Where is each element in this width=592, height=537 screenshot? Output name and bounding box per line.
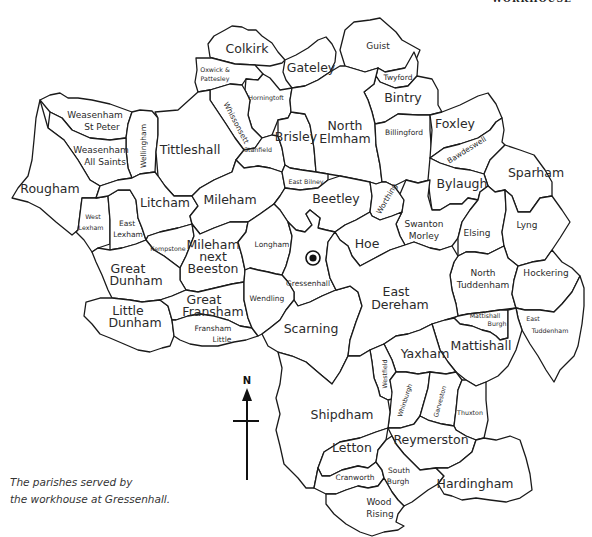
label-wendling: Wendling <box>250 294 285 303</box>
label-mattishall-burgh-2: Burgh <box>488 320 507 328</box>
label-kempstone: Kempstone <box>150 245 185 253</box>
label-hardingham: Hardingham <box>436 476 513 491</box>
label-letton: Letton <box>332 440 372 455</box>
label-stanfield: Stanfield <box>244 146 272 153</box>
north-arrow-icon: N <box>233 375 259 480</box>
label-swanton-morley-1: Swanton <box>404 219 443 229</box>
caption-line-2: the workhouse at Gressenhall. <box>10 491 170 508</box>
label-east-tuddenham-2: Tuddenham <box>531 327 569 334</box>
label-west-lexham-1: West <box>85 213 101 220</box>
label-east-tuddenham-1: East <box>526 315 540 322</box>
label-wood-rising-1: Wood <box>366 497 391 507</box>
label-weasenham-all-saints-2: All Saints <box>84 157 126 167</box>
label-shipdham: Shipdham <box>311 407 374 422</box>
label-mileham-next-beeston-3: Beeston <box>188 261 239 276</box>
label-twyford: Twyford <box>383 73 413 82</box>
label-east-lexham-2: Lexham <box>113 230 143 239</box>
label-rougham: Rougham <box>20 181 79 196</box>
label-reymerston: Reymerston <box>393 432 468 447</box>
label-fransham-little-1: Fransham <box>195 324 232 333</box>
label-yaxham: Yaxham <box>400 346 450 361</box>
label-guist: Guist <box>366 41 390 51</box>
label-weasenham-st-peter-2: St Peter <box>84 122 120 132</box>
label-westfield: Westfield <box>381 359 388 388</box>
label-billingford: Billingford <box>385 128 423 137</box>
label-oxwick-2: Pattesley <box>201 75 230 83</box>
label-hoe: Hoe <box>355 236 380 251</box>
label-little-dunham-2: Dunham <box>108 315 161 330</box>
label-litcham: Litcham <box>140 195 190 210</box>
label-great-dunham-2: Dunham <box>109 273 162 288</box>
label-beetley: Beetley <box>312 191 360 206</box>
label-north-elmham-2: Elmham <box>319 131 370 146</box>
label-scarning: Scarning <box>284 321 339 336</box>
label-east-lexham-1: East <box>119 219 135 228</box>
label-brisley: Brisley <box>275 129 318 144</box>
label-horningtoft: Horningtoft <box>248 94 284 102</box>
label-south-burgh-1: South <box>388 466 410 475</box>
label-fransham-little-2: Little <box>213 335 232 344</box>
north-label: N <box>243 375 251 386</box>
label-wellingham: Wellingham <box>139 124 148 168</box>
label-lyng: Lyng <box>517 220 538 230</box>
label-sparham: Sparham <box>508 165 564 180</box>
parish-map: Colkirk Oxwick & Pattesley Gateley Guist… <box>0 0 592 537</box>
label-oxwick-1: Oxwick & <box>200 66 230 73</box>
label-hockering: Hockering <box>523 268 568 278</box>
label-gateley: Gateley <box>287 60 336 75</box>
label-mileham: Mileham <box>203 192 256 207</box>
label-east-bilney: East Bilney <box>289 178 324 186</box>
label-north-tuddenham-2: Tuddenham <box>456 280 510 290</box>
label-weasenham-all-saints-1: Weasenham <box>73 145 128 155</box>
caption-line-1: The parishes served by <box>10 474 170 491</box>
parish-boundaries <box>12 18 584 536</box>
label-wood-rising-2: Rising <box>366 509 393 519</box>
label-thuxton: Thuxton <box>456 409 483 416</box>
parish-billingford[interactable] <box>375 114 432 186</box>
label-gressenhall: Gressenhall <box>286 279 330 288</box>
label-bylaugh: Bylaugh <box>437 176 488 191</box>
map-caption: The parishes served by the workhouse at … <box>10 474 170 508</box>
label-longham: Longham <box>255 240 290 249</box>
label-tittleshall: Tittleshall <box>159 142 221 157</box>
label-great-fransham-2: Fransham <box>182 304 243 319</box>
label-north-tuddenham-1: North <box>470 268 495 278</box>
label-elsing: Elsing <box>464 228 491 238</box>
label-bintry: Bintry <box>384 90 422 105</box>
label-east-dereham-2: Dereham <box>371 297 429 312</box>
label-cranworth: Cranworth <box>335 473 374 482</box>
label-west-lexham-2: Lexham <box>79 224 104 231</box>
label-foxley: Foxley <box>435 116 476 131</box>
label-mattishall-burgh-1: Mattishall <box>470 312 501 319</box>
label-weasenham-st-peter-1: Weasenham <box>67 110 122 120</box>
target-circle-icon[interactable] <box>306 251 320 265</box>
label-mattishall: Mattishall <box>451 338 512 353</box>
label-colkirk: Colkirk <box>226 41 270 56</box>
label-south-burgh-2: Burgh <box>387 477 410 486</box>
label-swanton-morley-2: Morley <box>409 231 440 241</box>
